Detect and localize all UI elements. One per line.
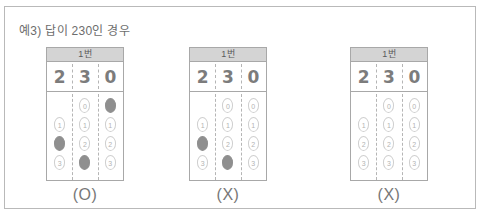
answer-card[interactable]: 1번 2 3 0 1 2 3 0 1 2 bbox=[350, 47, 428, 181]
answer-card-slot: 1번 2 3 0 1 2 3 0 1 2 bbox=[39, 47, 131, 204]
bubble-option-filled[interactable]: 2 bbox=[197, 136, 208, 151]
bubble-option[interactable]: 1 bbox=[105, 117, 116, 132]
handwritten-digit-row: 2 3 0 bbox=[351, 62, 427, 92]
handwritten-digit: 2 bbox=[47, 62, 72, 91]
bubble-option[interactable]: 3 bbox=[358, 155, 369, 170]
answer-card[interactable]: 1번 2 3 0 1 2 3 0 1 2 bbox=[46, 47, 124, 181]
bubble-option[interactable]: 3 bbox=[383, 155, 394, 170]
handwritten-digit-row: 2 3 0 bbox=[47, 62, 123, 92]
handwritten-digit-row: 2 3 0 bbox=[190, 62, 266, 92]
bubble-blank bbox=[54, 98, 65, 113]
bubble-column: 0 1 2 3 bbox=[215, 94, 240, 180]
bubble-column: 0 1 2 3 bbox=[72, 94, 97, 180]
answer-card-slot: 1번 2 3 0 1 2 3 0 1 2 bbox=[182, 47, 274, 204]
bubble-option[interactable]: 1 bbox=[248, 117, 259, 132]
bubble-grid: 1 2 3 0 1 2 3 0 1 2 3 bbox=[351, 92, 427, 180]
example-caption: 예3) 답이 230인 경우 bbox=[19, 21, 130, 38]
answer-card-list: 1번 2 3 0 1 2 3 0 1 2 bbox=[5, 47, 477, 207]
bubble-grid: 1 2 3 0 1 2 3 0 1 2 3 bbox=[190, 92, 266, 180]
example-panel: 예3) 답이 230인 경우 1번 2 3 0 1 2 3 bbox=[4, 6, 476, 209]
bubble-option[interactable]: 1 bbox=[54, 117, 65, 132]
bubble-option[interactable]: 1 bbox=[409, 117, 420, 132]
bubble-column: 1 2 3 bbox=[351, 94, 376, 180]
handwritten-digit: 3 bbox=[376, 62, 401, 91]
verdict-label: (O) bbox=[39, 186, 131, 204]
bubble-column: 0 1 2 3 bbox=[402, 94, 427, 180]
answer-card-slot: 1번 2 3 0 1 2 3 0 1 2 bbox=[343, 47, 435, 204]
handwritten-digit: 0 bbox=[241, 62, 266, 91]
bubble-column: 0 1 2 3 bbox=[241, 94, 266, 180]
handwritten-digit: 0 bbox=[402, 62, 427, 91]
bubble-option[interactable]: 3 bbox=[197, 155, 208, 170]
bubble-option-filled[interactable]: 2 bbox=[54, 136, 65, 151]
bubble-option-filled[interactable]: 3 bbox=[222, 155, 233, 170]
bubble-option[interactable]: 2 bbox=[248, 136, 259, 151]
bubble-option[interactable]: 1 bbox=[383, 117, 394, 132]
bubble-blank bbox=[358, 98, 369, 113]
bubble-option-filled[interactable]: 3 bbox=[79, 155, 90, 170]
bubble-option[interactable]: 0 bbox=[79, 98, 90, 113]
bubble-option[interactable]: 3 bbox=[54, 155, 65, 170]
bubble-option[interactable]: 1 bbox=[222, 117, 233, 132]
answer-card-header: 1번 bbox=[47, 48, 123, 62]
answer-card-header: 1번 bbox=[351, 48, 427, 62]
bubble-column: 0 1 2 3 bbox=[376, 94, 401, 180]
bubble-option[interactable]: 2 bbox=[409, 136, 420, 151]
bubble-option[interactable]: 0 bbox=[383, 98, 394, 113]
bubble-option[interactable]: 0 bbox=[222, 98, 233, 113]
handwritten-digit: 2 bbox=[351, 62, 376, 91]
bubble-option[interactable]: 3 bbox=[248, 155, 259, 170]
verdict-label: (X) bbox=[182, 186, 274, 204]
answer-card[interactable]: 1번 2 3 0 1 2 3 0 1 2 bbox=[189, 47, 267, 181]
bubble-blank bbox=[197, 98, 208, 113]
bubble-option[interactable]: 2 bbox=[79, 136, 90, 151]
bubble-column: 0 1 2 3 bbox=[98, 94, 123, 180]
bubble-option[interactable]: 1 bbox=[79, 117, 90, 132]
bubble-option-filled[interactable]: 0 bbox=[105, 98, 116, 113]
verdict-label: (X) bbox=[343, 186, 435, 204]
bubble-column: 1 2 3 bbox=[190, 94, 215, 180]
bubble-option[interactable]: 2 bbox=[105, 136, 116, 151]
bubble-option[interactable]: 2 bbox=[383, 136, 394, 151]
bubble-option[interactable]: 2 bbox=[222, 136, 233, 151]
bubble-option[interactable]: 0 bbox=[248, 98, 259, 113]
handwritten-digit: 0 bbox=[98, 62, 123, 91]
handwritten-digit: 3 bbox=[215, 62, 240, 91]
bubble-option[interactable]: 0 bbox=[409, 98, 420, 113]
handwritten-digit: 2 bbox=[190, 62, 215, 91]
bubble-grid: 1 2 3 0 1 2 3 0 1 2 3 bbox=[47, 92, 123, 180]
bubble-option[interactable]: 1 bbox=[197, 117, 208, 132]
bubble-option[interactable]: 3 bbox=[409, 155, 420, 170]
handwritten-digit: 3 bbox=[72, 62, 97, 91]
bubble-option[interactable]: 3 bbox=[105, 155, 116, 170]
bubble-column: 1 2 3 bbox=[47, 94, 72, 180]
bubble-option[interactable]: 2 bbox=[358, 136, 369, 151]
bubble-option[interactable]: 1 bbox=[358, 117, 369, 132]
answer-card-header: 1번 bbox=[190, 48, 266, 62]
